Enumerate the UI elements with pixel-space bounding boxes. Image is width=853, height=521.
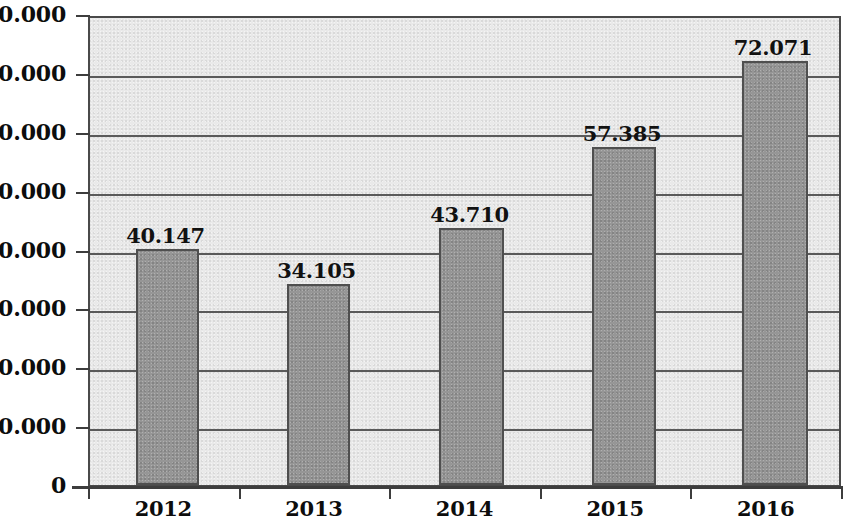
bar-2015 bbox=[592, 147, 656, 485]
y-tick-mark bbox=[76, 368, 90, 370]
y-tick-mark bbox=[76, 15, 90, 17]
y-tick-mark bbox=[76, 309, 90, 311]
x-axis-line bbox=[72, 486, 841, 489]
value-label-2012: 40.147 bbox=[106, 223, 226, 248]
y-tick-label-20000: 20.000 bbox=[0, 354, 66, 380]
y-tick-label-50000: 50.000 bbox=[0, 178, 66, 204]
y-tick-label-0: 0 bbox=[51, 472, 66, 498]
y-axis: 010.00020.00030.00040.00050.00060.00070.… bbox=[0, 0, 80, 521]
value-label-2016: 72.071 bbox=[713, 35, 833, 60]
bar-chart: 40.14734.10543.71057.38572.071 010.00020… bbox=[0, 0, 853, 521]
bar-grain-texture bbox=[138, 251, 197, 483]
gridline bbox=[90, 76, 839, 78]
bar-grain-texture bbox=[594, 149, 654, 483]
value-label-2013: 34.105 bbox=[257, 258, 377, 283]
bar-2014 bbox=[439, 228, 504, 485]
bar-2016 bbox=[742, 61, 808, 485]
x-category-label-2015: 2015 bbox=[540, 496, 691, 521]
y-tick-label-30000: 30.000 bbox=[0, 295, 66, 321]
bar-2013 bbox=[287, 284, 350, 485]
value-label-2014: 43.710 bbox=[410, 202, 530, 227]
x-tick-mark bbox=[841, 486, 843, 499]
value-label-2015: 57.385 bbox=[562, 121, 682, 146]
y-tick-mark bbox=[76, 192, 90, 194]
bar-grain-texture bbox=[441, 230, 502, 483]
x-category-label-2013: 2013 bbox=[239, 496, 390, 521]
y-tick-mark bbox=[76, 251, 90, 253]
y-tick-label-40000: 40.000 bbox=[0, 237, 66, 263]
y-tick-label-10000: 10.000 bbox=[0, 413, 66, 439]
y-tick-mark bbox=[76, 427, 90, 429]
y-tick-label-80000: 80.000 bbox=[0, 1, 66, 27]
gridline bbox=[90, 194, 839, 196]
y-tick-label-60000: 60.000 bbox=[0, 119, 66, 145]
x-category-label-2012: 2012 bbox=[88, 496, 239, 521]
x-category-label-2014: 2014 bbox=[389, 496, 540, 521]
y-tick-mark bbox=[76, 133, 90, 135]
x-category-label-2016: 2016 bbox=[690, 496, 841, 521]
gridline bbox=[90, 135, 839, 137]
bar-grain-texture bbox=[744, 63, 806, 483]
bar-2012 bbox=[136, 249, 199, 485]
y-tick-label-70000: 70.000 bbox=[0, 60, 66, 86]
plot-area bbox=[88, 16, 841, 487]
y-tick-mark bbox=[76, 74, 90, 76]
bar-grain-texture bbox=[289, 286, 348, 483]
